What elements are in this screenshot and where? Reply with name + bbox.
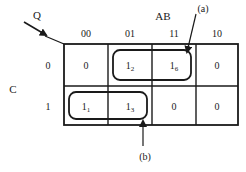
group-pointer-arrow: [187, 14, 196, 52]
group-label: (b): [139, 151, 151, 163]
column-header: 11: [169, 28, 179, 39]
group-label: (a): [197, 3, 208, 15]
cell-value: 16: [170, 60, 179, 73]
row-header: 0: [46, 60, 51, 71]
column-header: 10: [212, 28, 222, 39]
column-variable-label: AB: [155, 10, 170, 22]
cell-value: 12: [126, 60, 135, 73]
cell-value: 0: [172, 101, 177, 112]
cell-value: 0: [84, 60, 89, 71]
corner-arrow: [24, 22, 46, 35]
cell-value: 0: [215, 60, 220, 71]
column-header: 00: [81, 28, 91, 39]
cell-value: 11: [82, 101, 91, 114]
cell-value: 13: [126, 101, 135, 114]
corner-diagonal-line: [45, 36, 64, 44]
row-header: 1: [46, 101, 51, 112]
corner-arrow-label: Q: [33, 9, 41, 21]
row-variable-label: C: [9, 83, 16, 95]
karnaugh-map: Q AB C 00011110 01 012160111300 (a)(b): [0, 0, 246, 172]
cell-value: 0: [215, 101, 220, 112]
column-header: 01: [125, 28, 135, 39]
